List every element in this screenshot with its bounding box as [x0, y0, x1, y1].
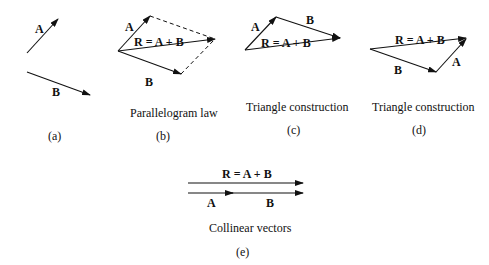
- caption-b: Parallelogram law: [130, 106, 218, 120]
- label-b: B: [306, 13, 314, 27]
- vector-b-arrow: [370, 49, 436, 72]
- label-a: A: [125, 20, 134, 34]
- caption-d: Triangle construction: [372, 100, 475, 114]
- panel-c: A B R = A + B Triangle construction (c): [245, 13, 349, 137]
- panel-tag-d: (d): [412, 123, 426, 137]
- panel-tag-a: (a): [48, 129, 61, 143]
- label-a: A: [452, 55, 461, 69]
- panel-e: R = A + B A B Collinear vectors (e): [188, 167, 303, 259]
- caption-e: Collinear vectors: [209, 221, 292, 235]
- vector-addition-diagram: A B (a) A R = A + B B Parallelogram law …: [0, 0, 489, 265]
- label-b: B: [145, 75, 153, 89]
- label-a: A: [207, 196, 216, 210]
- label-a: A: [35, 22, 44, 36]
- label-r: R = A + B: [134, 35, 184, 49]
- panel-tag-e: (e): [236, 245, 249, 259]
- label-r: R = A + B: [395, 33, 445, 47]
- dashed-a-copy: [181, 39, 215, 74]
- label-b: B: [266, 196, 274, 210]
- panel-b: A R = A + B B Parallelogram law (b): [118, 16, 218, 143]
- label-b: B: [394, 63, 402, 77]
- panel-a: A B (a): [27, 19, 90, 143]
- vector-b-arrow: [118, 51, 181, 74]
- label-a: A: [251, 20, 260, 34]
- panel-tag-c: (c): [287, 123, 300, 137]
- label-r: R = A + B: [222, 167, 272, 181]
- caption-c: Triangle construction: [246, 100, 349, 114]
- panel-d: R = A + B B A Triangle construction (d): [370, 33, 475, 137]
- label-b: B: [52, 85, 60, 99]
- panel-tag-b: (b): [156, 129, 170, 143]
- label-r: R = A + B: [261, 36, 311, 50]
